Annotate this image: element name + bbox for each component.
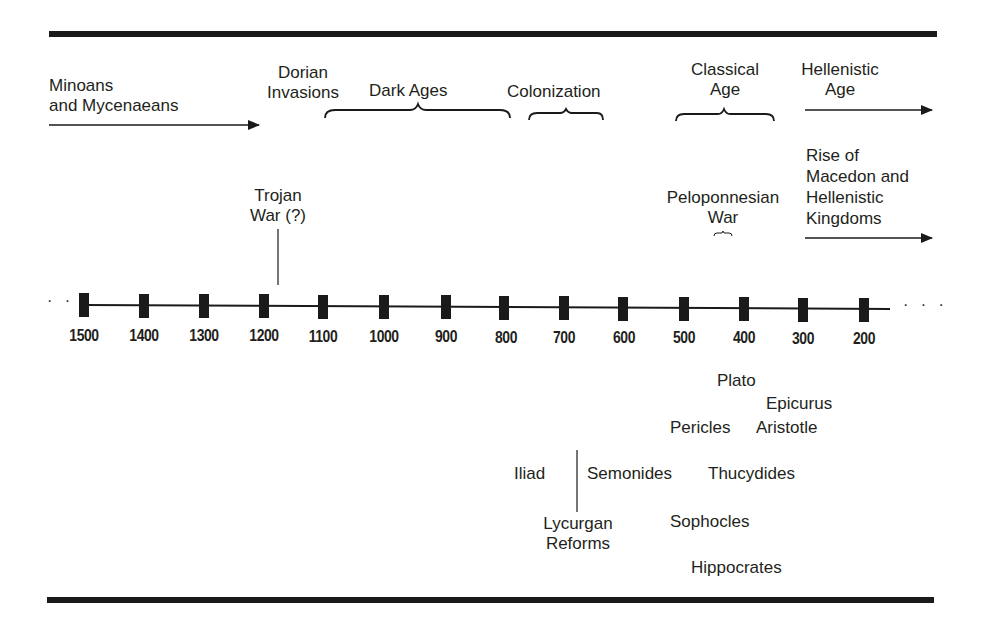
minoans-line2: and Mycenaeans: [49, 96, 178, 116]
tick-400: [739, 297, 749, 321]
hellenistic-line2: Age: [788, 80, 892, 100]
dorian-line2: Invasions: [256, 83, 350, 103]
macedon-line4: Kingdoms: [806, 208, 909, 229]
year-label: 700: [553, 328, 575, 348]
dark-ages-brace: [325, 104, 510, 118]
lycurgan-line2: Reforms: [530, 534, 626, 554]
year-label: 900: [435, 327, 457, 347]
classical-line1: Classical: [674, 60, 776, 80]
colonization-brace: [529, 109, 603, 120]
tick-300: [798, 298, 808, 322]
dark-ages-label: Dark Ages: [369, 81, 447, 101]
dorian-invasions-label: Dorian Invasions: [256, 63, 350, 103]
tick-600: [618, 297, 628, 321]
pericles-label: Pericles: [670, 418, 730, 438]
semonides-label: Semonides: [587, 464, 672, 484]
year-label: 500: [673, 328, 695, 348]
tick-1300: [199, 294, 209, 318]
macedon-line1: Rise of: [806, 145, 909, 166]
classical-line2: Age: [674, 80, 776, 100]
year-label: 800: [495, 328, 517, 348]
tick-700: [559, 296, 569, 320]
classical-age-brace: [676, 109, 774, 121]
year-label: 1500: [69, 326, 98, 346]
year-label: 300: [792, 329, 814, 349]
tick-1000: [379, 295, 389, 319]
colonization-label: Colonization: [507, 82, 601, 102]
tick-500: [679, 297, 689, 321]
trojan-war-label: Trojan War (?): [236, 186, 320, 226]
tick-1500: [79, 293, 89, 317]
thucydides-label: Thucydides: [708, 464, 795, 484]
year-label: 1400: [129, 326, 158, 346]
year-label: 1200: [249, 326, 278, 346]
year-label: 1300: [189, 326, 218, 346]
tick-200: [859, 298, 869, 322]
minoans-mycenaeans-label: Minoans and Mycenaeans: [49, 76, 178, 116]
year-label: 1000: [369, 327, 398, 347]
right-ellipsis: · · ·: [903, 296, 948, 314]
pelop-line2: War: [650, 208, 796, 228]
tick-800: [499, 296, 509, 320]
hippocrates-label: Hippocrates: [691, 558, 782, 578]
peloponnesian-war-label: Peloponnesian War: [650, 188, 796, 228]
classical-age-label: Classical Age: [674, 60, 776, 100]
hellenistic-age-label: Hellenistic Age: [788, 60, 892, 100]
hellenistic-line1: Hellenistic: [788, 60, 892, 80]
trojan-line2: War (?): [236, 206, 320, 226]
tick-900: [441, 295, 451, 319]
rise-of-macedon-label: Rise of Macedon and Hellenistic Kingdoms: [806, 145, 909, 229]
year-label: 200: [853, 329, 875, 349]
aristotle-label: Aristotle: [756, 418, 817, 438]
tick-1400: [139, 294, 149, 318]
trojan-line1: Trojan: [236, 186, 320, 206]
year-label: 1100: [309, 327, 338, 347]
lycurgan-line1: Lycurgan: [530, 514, 626, 534]
epicurus-label: Epicurus: [766, 394, 832, 414]
dorian-line1: Dorian: [256, 63, 350, 83]
tick-1200: [259, 294, 269, 318]
pelop-line1: Peloponnesian: [650, 188, 796, 208]
sophocles-label: Sophocles: [670, 512, 749, 532]
lycurgan-reforms-label: Lycurgan Reforms: [530, 514, 626, 554]
peloponnesian-war-brace: [714, 231, 732, 236]
year-label: 600: [613, 328, 635, 348]
plato-label: Plato: [717, 371, 756, 391]
iliad-label: Iliad: [514, 464, 545, 484]
macedon-line2: Macedon and: [806, 166, 909, 187]
tick-1100: [318, 295, 328, 319]
minoans-line1: Minoans: [49, 76, 178, 96]
macedon-line3: Hellenistic: [806, 187, 909, 208]
year-label: 400: [733, 328, 755, 348]
